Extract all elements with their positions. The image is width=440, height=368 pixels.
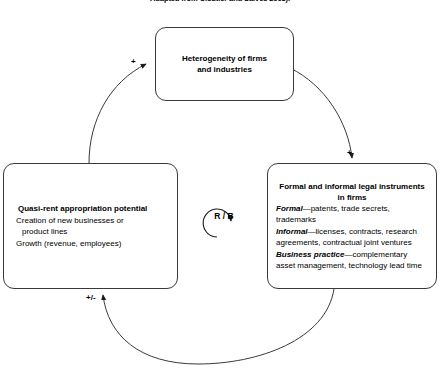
- informal-text-2: agreements, contractual joint ventures: [276, 237, 432, 249]
- link-right-to-left: [103, 289, 334, 364]
- loop-type-label: R / B: [206, 211, 242, 221]
- formal-text: —patents, trade secrets,: [303, 204, 390, 213]
- formal-text-2: trademarks: [276, 214, 432, 226]
- node-left-line-2: product lines: [16, 226, 177, 238]
- polarity-right-to-left: +/-: [86, 294, 96, 302]
- business-practice-text: —complementary: [344, 250, 407, 259]
- node-heterogeneity-of-firms: Heterogeneity of firms and industries: [155, 27, 294, 101]
- causal-loop-diagram: Adapted from Cloutier and Salves 2003). …: [0, 0, 440, 368]
- node-quasi-rent-appropriation-potential: Quasi-rent appropriation potential Creat…: [3, 163, 178, 289]
- node-right-body: Formal—patents, trade secrets, trademark…: [268, 203, 436, 272]
- link-left-to-top: [89, 64, 146, 163]
- business-practice-text-2: asset management, technology lead time: [276, 260, 432, 272]
- node-right-title: Formal and informal legal instruments in…: [268, 181, 436, 203]
- node-left-title: Quasi-rent appropriation potential: [4, 203, 177, 215]
- polarity-top-to-right: +: [347, 149, 352, 157]
- node-top-title: Heterogeneity of firms and industries: [156, 53, 293, 75]
- node-right-informal-row: Informal—licenses, contracts, research: [276, 226, 432, 238]
- node-legal-instruments: Formal and informal legal instruments in…: [267, 163, 437, 289]
- informal-label: Informal: [276, 227, 308, 236]
- node-left-line-3: Growth (revenue, employees): [16, 238, 177, 250]
- polarity-left-to-top: +: [131, 58, 136, 66]
- node-right-practice-row: Business practice—complementary: [276, 249, 432, 261]
- node-right-formal-row: Formal—patents, trade secrets,: [276, 203, 432, 215]
- business-practice-label: Business practice: [276, 250, 344, 259]
- informal-text: —licenses, contracts, research: [308, 227, 417, 236]
- node-left-body: Creation of new businesses or product li…: [4, 215, 177, 250]
- node-left-line-1: Creation of new businesses or: [16, 215, 177, 227]
- link-top-to-right: [290, 68, 352, 158]
- formal-label: Formal: [276, 204, 303, 213]
